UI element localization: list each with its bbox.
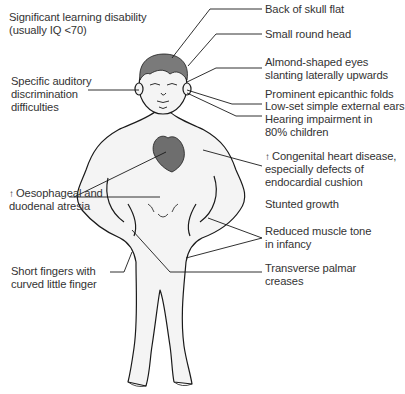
label-congenital-heart: ↑Congenital heart disease, especially de…	[265, 150, 396, 189]
label-oesophageal-atresia: ↑Oesophageal and duodenal atresia	[9, 187, 103, 213]
label-reduced-muscle-tone: Reduced muscle tone in infancy	[265, 225, 371, 251]
label-auditory-discrimination: Specific auditory discrimination difficu…	[11, 75, 91, 114]
label-small-round-head: Small round head	[265, 28, 351, 41]
label-stunted-growth: Stunted growth	[265, 198, 339, 211]
increase-arrow-icon: ↑	[265, 151, 270, 162]
label-transverse-palmar: Transverse palmar creases	[265, 262, 356, 288]
increase-arrow-icon: ↑	[9, 188, 14, 199]
label-short-fingers: Short fingers with curved little finger	[11, 265, 97, 291]
label-low-set-ears: Low-set simple external ears	[265, 100, 405, 113]
label-almond-eyes: Almond-shaped eyes slanting laterally up…	[265, 56, 388, 82]
label-back-of-skull: Back of skull flat	[265, 3, 344, 16]
label-hearing-impairment: Hearing impairment in 80% children	[265, 113, 372, 139]
label-learning-disability: Significant learning disability (usually…	[9, 11, 146, 37]
